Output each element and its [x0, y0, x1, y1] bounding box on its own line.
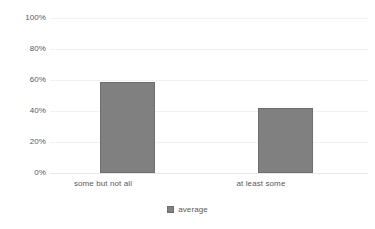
y-axis-tick-label: 80%	[4, 45, 46, 53]
x-axis-label-category-1: at least some	[210, 179, 312, 188]
y-axis-tick-label: 100%	[4, 14, 46, 22]
x-axis-label-category-0: some but not all	[52, 179, 154, 188]
bar-some-but-not-all[interactable]	[100, 82, 155, 173]
gridline-100	[50, 18, 368, 19]
y-axis-tick-label: 20%	[4, 138, 46, 146]
plot-area	[50, 18, 368, 173]
gridline-80	[50, 49, 368, 50]
bar-chart: 100% 80% 60% 40% 20% 0% some but not all…	[0, 0, 375, 229]
y-axis-tick-label: 40%	[4, 107, 46, 115]
y-axis-tick-label: 60%	[4, 76, 46, 84]
gridline-20	[50, 142, 368, 143]
bar-at-least-some[interactable]	[258, 108, 313, 173]
gridline-40	[50, 111, 368, 112]
legend: average	[0, 205, 375, 214]
gridline-60	[50, 80, 368, 81]
legend-item-label[interactable]: average	[178, 205, 208, 214]
legend-swatch-icon	[167, 206, 174, 213]
gridline-0	[50, 173, 368, 174]
y-axis-tick-label: 0%	[4, 169, 46, 177]
